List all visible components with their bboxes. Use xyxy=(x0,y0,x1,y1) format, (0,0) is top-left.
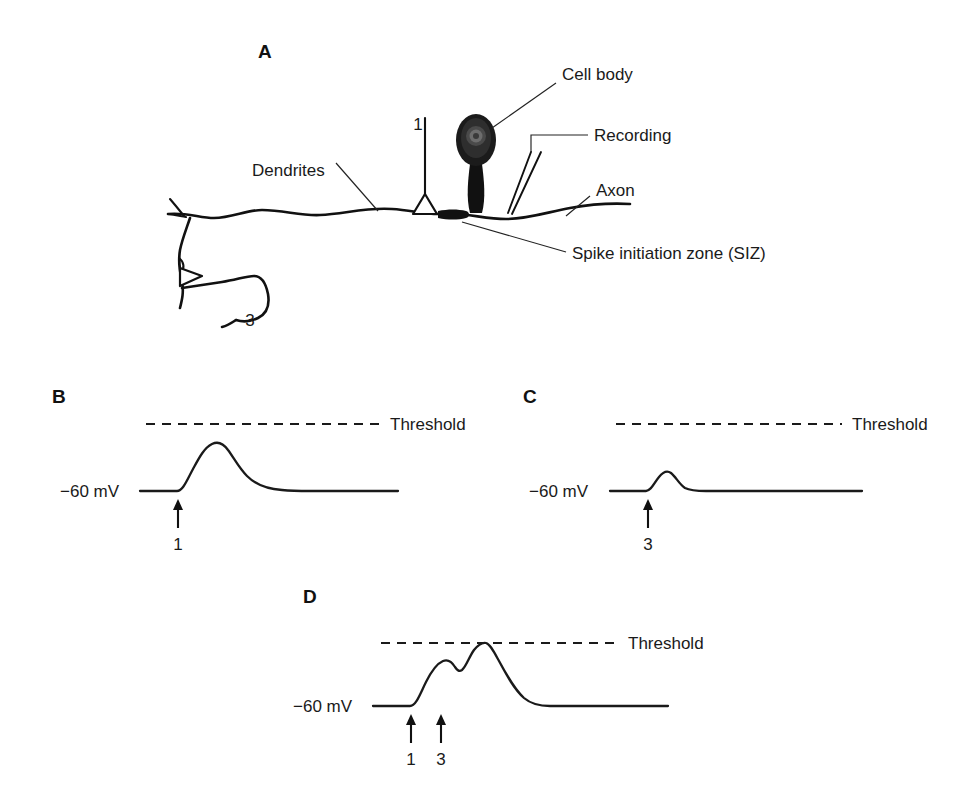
label-axon: Axon xyxy=(596,181,635,200)
synapse-1-terminal-icon xyxy=(413,194,437,214)
label-siz: Spike initiation zone (SIZ) xyxy=(572,244,766,263)
panel-d-threshold-label: Threshold xyxy=(628,634,704,653)
nucleolus-icon xyxy=(473,133,479,139)
recording-electrode-group xyxy=(508,152,541,214)
leader-siz xyxy=(462,222,566,252)
panel-a: A 1 xyxy=(168,41,766,330)
panel-c-arrow-head-icon xyxy=(643,499,653,510)
panel-c-threshold-label: Threshold xyxy=(852,415,928,434)
panel-c-trace xyxy=(610,472,862,491)
figure-root: A 1 xyxy=(0,0,969,804)
panel-b-baseline-label: −60 mV xyxy=(60,482,120,501)
panel-b-arrow-head-icon xyxy=(173,499,183,510)
label-recording: Recording xyxy=(594,126,672,145)
synapse-1-group: 1 xyxy=(413,115,437,214)
panel-d-marker-number-3: 3 xyxy=(436,750,445,769)
synapse-3-axon-tail xyxy=(222,320,236,327)
panel-b: B −60 mV Threshold 1 xyxy=(52,386,466,554)
panel-b-stimulus-marker-1: 1 xyxy=(173,499,183,554)
synapse-3-terminal-icon xyxy=(180,268,202,286)
panel-c: C −60 mV Threshold 3 xyxy=(523,386,928,554)
panel-d-marker-number-1: 1 xyxy=(406,750,415,769)
label-dendrites: Dendrites xyxy=(252,161,325,180)
panel-a-letter: A xyxy=(258,41,272,62)
panel-d-baseline-label: −60 mV xyxy=(293,697,353,716)
panel-c-stimulus-marker-3: 3 xyxy=(643,499,653,554)
leader-cell-body xyxy=(492,83,556,128)
dendrite-branch-descending xyxy=(179,218,190,308)
panel-d-trace xyxy=(373,643,668,706)
leader-dendrites xyxy=(336,163,378,211)
panel-d-letter: D xyxy=(303,586,317,607)
dendrite-branch-lower xyxy=(182,276,269,321)
dendrite-trunk-path xyxy=(168,209,438,218)
panel-d-stimulus-marker-1: 1 xyxy=(406,714,416,769)
panel-b-threshold-label: Threshold xyxy=(390,415,466,434)
synapse-3-number: 3 xyxy=(245,311,254,330)
soma-stalk xyxy=(468,164,485,213)
panel-d-arrow-head-3-icon xyxy=(436,714,446,725)
panel-c-baseline-label: −60 mV xyxy=(529,482,589,501)
panel-c-letter: C xyxy=(523,386,537,407)
panel-d-arrow-head-1-icon xyxy=(406,714,416,725)
panel-b-trace xyxy=(140,443,398,491)
panel-b-marker-number: 1 xyxy=(173,535,182,554)
synapse-1-number: 1 xyxy=(413,115,422,134)
panel-b-letter: B xyxy=(52,386,66,407)
siz-thickening xyxy=(438,210,469,220)
panel-c-marker-number: 3 xyxy=(643,535,652,554)
panel-d: D −60 mV Threshold 1 3 xyxy=(293,586,704,769)
leader-recording xyxy=(531,135,588,152)
figure-svg: A 1 xyxy=(0,0,969,804)
cell-body-group xyxy=(456,114,496,213)
panel-d-stimulus-marker-3: 3 xyxy=(436,714,446,769)
label-cell-body: Cell body xyxy=(562,65,633,84)
